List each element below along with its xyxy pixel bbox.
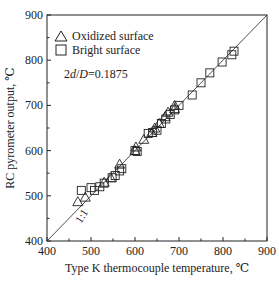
square-marker-icon bbox=[56, 45, 66, 55]
x-tick-label: 900 bbox=[258, 244, 276, 258]
x-tick-label: 500 bbox=[82, 244, 100, 258]
y-tick-label: 500 bbox=[25, 189, 43, 203]
legend-oxidized-label: Oxidized surface bbox=[72, 29, 154, 43]
ratio-annotation: 2d/D=0.1875 bbox=[64, 67, 128, 81]
square-data-point bbox=[77, 186, 85, 194]
y-axis-label: RC pyrometer output, ℃ bbox=[3, 67, 17, 188]
y-tick-label: 400 bbox=[25, 234, 43, 248]
square-data-point bbox=[218, 58, 226, 66]
y-tick-label: 900 bbox=[25, 8, 43, 22]
one-to-one-label: 1:1 bbox=[73, 207, 91, 225]
y-tick-label: 700 bbox=[25, 98, 43, 112]
scatter-chart: 400500600700800900400500600700800900 Oxi… bbox=[0, 0, 279, 285]
x-tick-label: 800 bbox=[214, 244, 232, 258]
y-tick-label: 800 bbox=[25, 53, 43, 67]
square-data-point bbox=[206, 69, 214, 77]
triangle-marker-icon bbox=[55, 31, 67, 41]
x-tick-label: 600 bbox=[126, 244, 144, 258]
square-data-point bbox=[87, 184, 95, 192]
legend-bright-label: Bright surface bbox=[72, 43, 140, 57]
legend: Oxidized surface Bright surface 2d/D=0.1… bbox=[55, 29, 154, 81]
y-tick-label: 600 bbox=[25, 144, 43, 158]
x-axis-label: Type K thermocouple temperature, ℃ bbox=[65, 261, 249, 275]
x-tick-label: 700 bbox=[170, 244, 188, 258]
